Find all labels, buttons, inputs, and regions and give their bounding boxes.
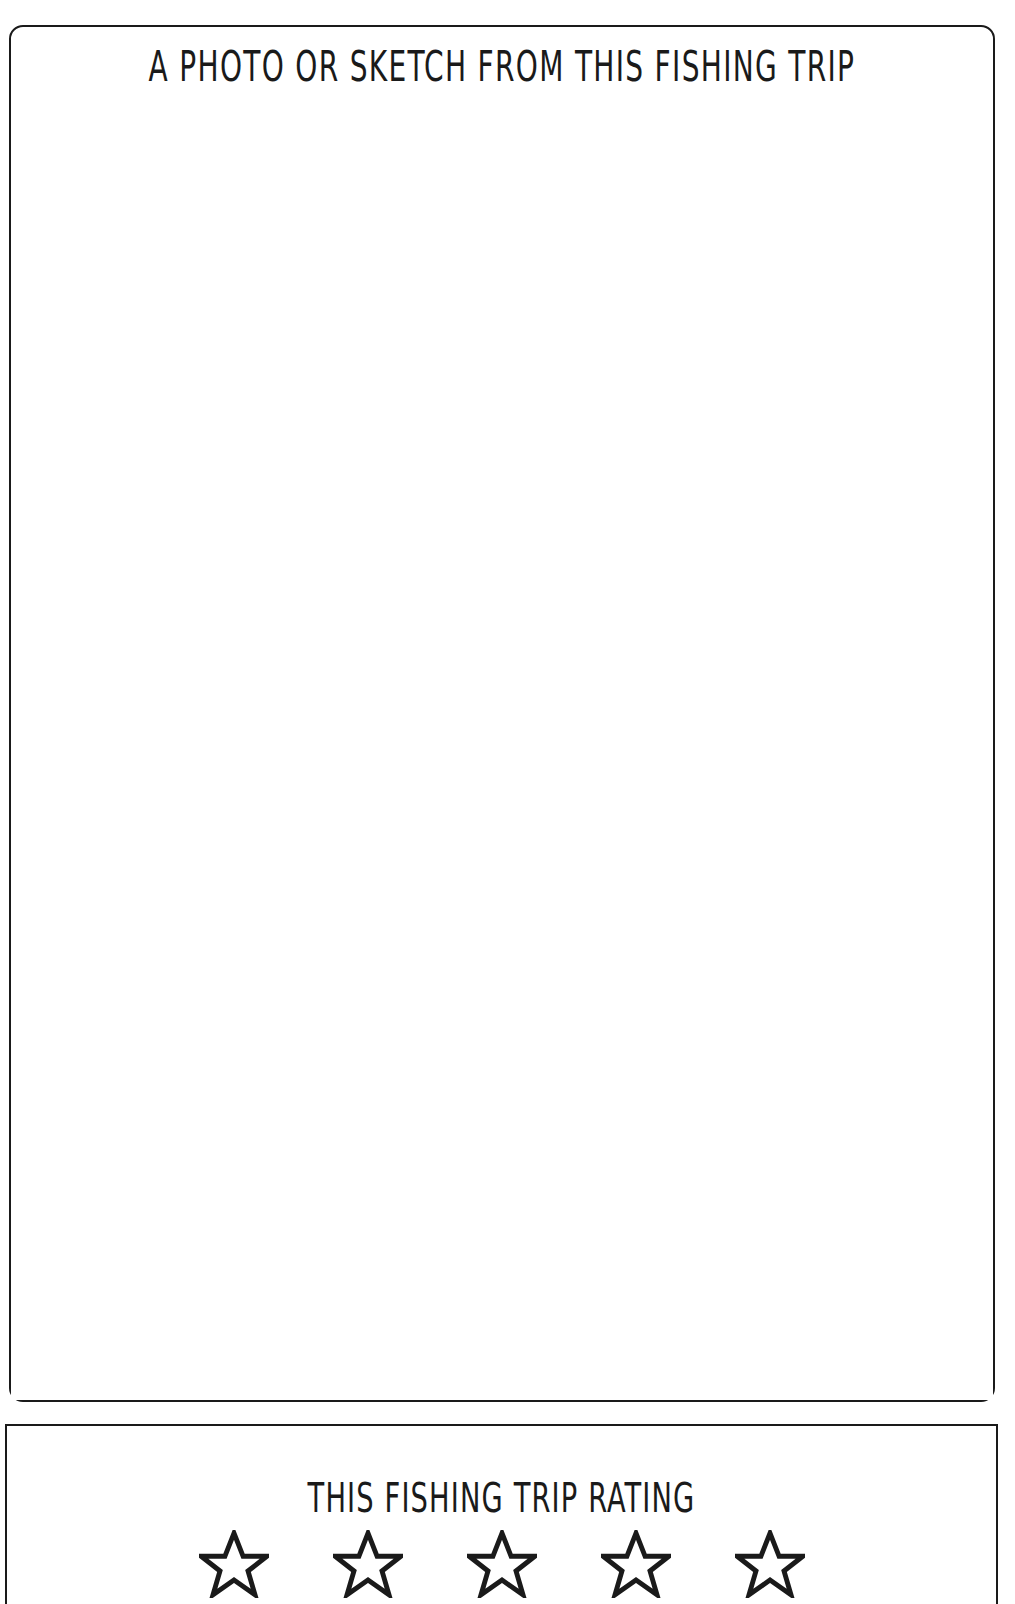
rating-star-2-icon[interactable] bbox=[333, 1530, 403, 1598]
rating-star-3-icon[interactable] bbox=[467, 1530, 537, 1598]
photo-sketch-card: A PHOTO OR SKETCH FROM THIS FISHING TRIP bbox=[9, 25, 995, 1402]
rating-star-4-icon[interactable] bbox=[601, 1530, 671, 1598]
photo-sketch-title: A PHOTO OR SKETCH FROM THIS FISHING TRIP bbox=[149, 45, 856, 88]
trip-rating-card: THIS FISHING TRIP RATING bbox=[5, 1424, 998, 1604]
photo-sketch-header: A PHOTO OR SKETCH FROM THIS FISHING TRIP bbox=[11, 27, 993, 107]
photo-sketch-canvas[interactable] bbox=[11, 105, 993, 1400]
trip-rating-title: THIS FISHING TRIP RATING bbox=[308, 1476, 696, 1517]
rating-star-1-icon[interactable] bbox=[199, 1530, 269, 1598]
rating-star-5-icon[interactable] bbox=[735, 1530, 805, 1598]
trip-rating-stars bbox=[7, 1530, 996, 1598]
